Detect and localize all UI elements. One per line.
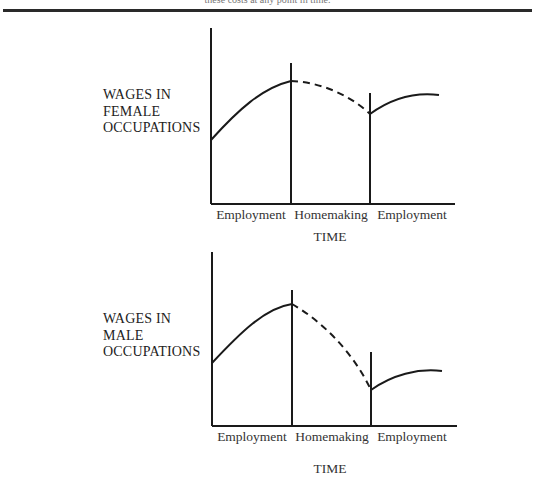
y-label-line: OCCUPATIONS [103, 120, 200, 137]
phase-label-employment-2: Employment [377, 207, 447, 223]
female-chart [211, 28, 455, 204]
phase-label-employment-1: Employment [216, 207, 286, 223]
x-axis-title: TIME [314, 229, 347, 245]
phase-label-homemaking: Homemaking [294, 207, 368, 223]
y-label-line: FEMALE [103, 104, 200, 121]
wage-curve-employment-2 [370, 94, 439, 114]
phase-label-homemaking: Homemaking [295, 429, 369, 445]
diagram-canvas [0, 0, 535, 489]
wage-curve-employment-2 [371, 370, 442, 390]
wage-curve-homemaking [291, 81, 370, 114]
male-y-label: WAGES IN MALE OCCUPATIONS [103, 311, 200, 361]
wage-curve-employment-1 [212, 304, 292, 363]
wage-curve-homemaking [292, 304, 371, 390]
y-label-line: MALE [103, 328, 200, 345]
y-label-line: WAGES IN [103, 87, 200, 104]
y-label-line: WAGES IN [103, 311, 200, 328]
x-axis-title: TIME [314, 461, 347, 477]
phase-label-employment-2: Employment [377, 429, 447, 445]
male-chart [212, 252, 457, 426]
y-label-line: OCCUPATIONS [103, 344, 200, 361]
wage-curve-employment-1 [211, 81, 291, 140]
phase-label-employment-1: Employment [217, 429, 287, 445]
female-y-label: WAGES IN FEMALE OCCUPATIONS [103, 87, 200, 137]
